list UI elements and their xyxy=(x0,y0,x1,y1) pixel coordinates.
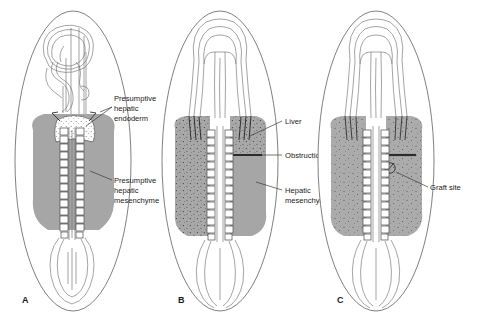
label-line: Presumptive xyxy=(114,176,156,185)
label-line: mesenchyme xyxy=(114,196,159,205)
somite-column-right-b xyxy=(225,130,233,240)
panel-letter-c: C xyxy=(337,295,344,305)
somite-column-left-c xyxy=(363,130,371,240)
label-line: hepatic xyxy=(114,104,139,113)
somite-column-left-b xyxy=(207,130,215,240)
hepatic-mesenchyme-region-b xyxy=(230,155,266,236)
label-line: Presumptive xyxy=(114,94,156,103)
embryo-induction-figure: A Presumptive hepatic endoderm Presumpti… xyxy=(0,0,483,323)
panel-letter-a: A xyxy=(22,295,29,305)
label-presumptive-hepatic-endoderm: Presumptive hepatic endoderm xyxy=(114,94,156,123)
label-graft-site: Graft site xyxy=(430,183,461,192)
panel-b: B Liver Obstruction Hepatic mesenchyme xyxy=(162,11,330,311)
liver-region-right-b xyxy=(230,116,266,155)
liver-region-left-c xyxy=(330,116,366,236)
label-presumptive-hepatic-mesenchyme: Presumptive hepatic mesenchyme xyxy=(114,176,159,205)
label-line: hepatic xyxy=(114,186,139,195)
panel-c: C Graft site xyxy=(318,11,461,311)
panel-a: A Presumptive hepatic endoderm Presumpti… xyxy=(15,11,159,311)
somite-column-left-a xyxy=(60,128,68,238)
label-line: Hepatic xyxy=(285,186,311,195)
somite-column-right-a xyxy=(76,128,84,238)
somite-column-right-c xyxy=(381,130,389,240)
liver-region-left-b xyxy=(174,116,210,236)
label-line: endoderm xyxy=(114,114,148,123)
label-liver: Liver xyxy=(285,117,302,126)
panel-letter-b: B xyxy=(178,295,185,305)
